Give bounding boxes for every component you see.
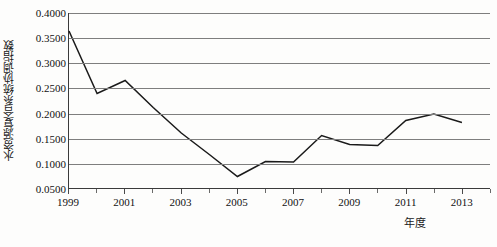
x-tick-label: 2007	[282, 196, 304, 208]
y-tick-label: 0.2500	[20, 82, 66, 94]
data-line-chart	[69, 13, 490, 188]
x-tick-major	[124, 189, 125, 194]
y-tick-label: 0.1000	[20, 158, 66, 170]
x-tick-label: 2003	[170, 196, 192, 208]
x-tick-major	[68, 189, 69, 194]
y-axis-title: 水资源复合系统协调指数	[0, 0, 18, 200]
x-axis-title: 年度	[404, 214, 426, 230]
x-tick-minor	[377, 189, 378, 193]
y-tick-label: 0.0500	[20, 183, 66, 195]
x-tick-minor	[490, 189, 491, 193]
y-tick-label: 0.4000	[20, 7, 66, 19]
x-tick-minor	[152, 189, 153, 193]
x-tick-major	[406, 189, 407, 194]
y-axis-tick-labels: 0.05000.10000.15000.20000.25000.30000.35…	[20, 0, 66, 247]
x-tick-minor	[209, 189, 210, 193]
gridline-0.35	[69, 38, 490, 39]
x-tick-label: 2005	[226, 196, 248, 208]
x-tick-label: 1999	[57, 196, 79, 208]
x-tick-major	[462, 189, 463, 194]
x-tick-major	[293, 189, 294, 194]
x-tick-label: 2013	[451, 196, 473, 208]
x-tick-minor	[321, 189, 322, 193]
x-tick-label: 2001	[113, 196, 135, 208]
x-tick-minor	[265, 189, 266, 193]
x-tick-major	[237, 189, 238, 194]
gridline-0.25	[69, 88, 490, 89]
x-tick-label: 2009	[338, 196, 360, 208]
gridline-0.4	[69, 13, 490, 14]
x-tick-major	[181, 189, 182, 194]
gridline-0.15	[69, 139, 490, 140]
x-tick-label: 2011	[395, 196, 417, 208]
y-tick-label: 0.2000	[20, 108, 66, 120]
x-tick-major	[349, 189, 350, 194]
y-tick-label: 0.3500	[20, 32, 66, 44]
plot-area	[68, 13, 490, 189]
gridline-0.1	[69, 164, 490, 165]
gridline-0.2	[69, 114, 490, 115]
chart-container: 水资源复合系统协调指数 0.05000.10000.15000.20000.25…	[0, 0, 497, 247]
y-tick-label: 0.1500	[20, 133, 66, 145]
x-tick-minor	[96, 189, 97, 193]
y-axis-title-text: 水资源复合系统协调指数	[4, 40, 15, 161]
gridline-0.3	[69, 63, 490, 64]
series-line-coordination-index	[69, 31, 462, 176]
y-tick-label: 0.3000	[20, 57, 66, 69]
x-tick-minor	[434, 189, 435, 193]
